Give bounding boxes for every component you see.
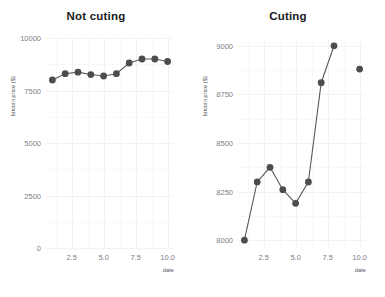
x-tick-label: 5.0 xyxy=(98,253,108,262)
data-point xyxy=(62,70,69,77)
data-point xyxy=(113,70,120,77)
y-axis-title-left: bitcoin price ($) xyxy=(10,106,16,116)
data-point xyxy=(305,178,312,185)
data-point xyxy=(267,164,274,171)
data-point xyxy=(75,69,82,76)
x-axis-title-left: date xyxy=(46,267,174,273)
y-tick-label: 8000 xyxy=(216,236,233,245)
plot-canvas-right: 800082508500875090002.55.07.510.0 xyxy=(238,38,366,248)
plot-area-right: 800082508500875090002.55.07.510.0 xyxy=(238,38,366,248)
y-tick-label: 0 xyxy=(37,244,41,253)
panel-cuting: Cuting bitcoin price ($) 800082508500875… xyxy=(192,0,384,297)
y-tick-label: 2500 xyxy=(24,191,41,200)
y-tick-label: 8500 xyxy=(216,139,233,148)
y-tick-label: 9000 xyxy=(216,41,233,50)
plot-area-left: 0250050007500100002.55.07.510.0 xyxy=(46,38,174,248)
y-axis-title-right: bitcoin price ($) xyxy=(202,106,208,116)
x-tick-label: 7.5 xyxy=(322,253,332,262)
data-point xyxy=(241,237,248,244)
x-tick-label: 2.5 xyxy=(66,253,76,262)
data-point xyxy=(331,42,338,49)
series-layer xyxy=(46,38,174,248)
data-point xyxy=(279,186,286,193)
data-point xyxy=(164,58,171,65)
data-point xyxy=(356,66,363,73)
data-point xyxy=(292,200,299,207)
y-gridline xyxy=(46,248,174,249)
y-tick-label: 5000 xyxy=(24,139,41,148)
series-layer xyxy=(238,38,366,248)
x-tick-label: 2.5 xyxy=(258,253,268,262)
data-point xyxy=(254,178,261,185)
panel-not-cuting: Not cuting bitcoin price ($) 02500500075… xyxy=(0,0,192,297)
panel-title-right: Cuting xyxy=(192,10,384,22)
series-line xyxy=(52,59,167,80)
figure-container: Not cuting bitcoin price ($) 02500500075… xyxy=(0,0,385,297)
y-tick-label: 8750 xyxy=(216,90,233,99)
data-point xyxy=(139,56,146,63)
x-tick-label: 10.0 xyxy=(352,253,367,262)
data-point xyxy=(100,73,107,80)
series-line xyxy=(244,46,334,240)
y-tick-label: 10000 xyxy=(20,34,41,43)
y-tick-label: 8250 xyxy=(216,187,233,196)
x-tick-label: 5.0 xyxy=(290,253,300,262)
data-point xyxy=(49,77,56,84)
y-tick-label: 7500 xyxy=(24,86,41,95)
x-tick-label: 10.0 xyxy=(160,253,175,262)
data-point xyxy=(318,79,325,86)
data-point xyxy=(87,71,94,78)
x-axis-title-right: date xyxy=(238,267,366,273)
x-tick-label: 7.5 xyxy=(130,253,140,262)
data-point xyxy=(126,60,133,67)
data-point xyxy=(151,56,158,63)
plot-canvas-left: 0250050007500100002.55.07.510.0 xyxy=(46,38,174,248)
panel-title-left: Not cuting xyxy=(0,10,192,22)
